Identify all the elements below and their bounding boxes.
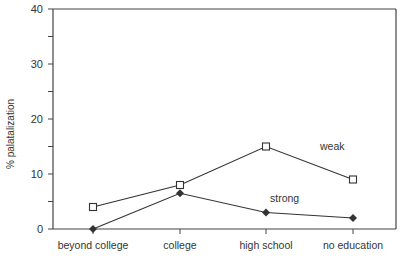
y-tick-label: 0 [37, 223, 43, 235]
square-marker-icon [90, 204, 97, 211]
annotation-strong: strong [270, 192, 299, 204]
square-marker-icon [263, 143, 270, 150]
x-tick-label: no education [323, 239, 383, 251]
x-tick-label: beyond college [58, 239, 129, 251]
diamond-marker-icon [262, 209, 270, 217]
x-tick-label: college [163, 239, 196, 251]
labels: 010203040% palatalizationbeyond collegec… [5, 3, 383, 251]
series-line-weak [93, 147, 353, 208]
chart-canvas: 010203040% palatalizationbeyond collegec… [0, 0, 404, 262]
series-lines [89, 143, 357, 233]
x-tick-label: high school [239, 239, 292, 251]
y-tick-label: 20 [31, 113, 43, 125]
axes [48, 9, 396, 234]
y-tick-label: 10 [31, 168, 43, 180]
square-marker-icon [177, 182, 184, 189]
y-tick-label: 40 [31, 3, 43, 15]
square-marker-icon [350, 176, 357, 183]
annotation-weak: weak [319, 140, 345, 152]
y-axis-label: % palatalization [5, 99, 16, 169]
line-chart: 010203040% palatalizationbeyond collegec… [0, 0, 404, 262]
diamond-marker-icon [349, 214, 357, 222]
series-line-strong [93, 193, 353, 229]
diamond-marker-icon [89, 225, 97, 233]
diamond-marker-icon [176, 189, 184, 197]
y-tick-label: 30 [31, 58, 43, 70]
